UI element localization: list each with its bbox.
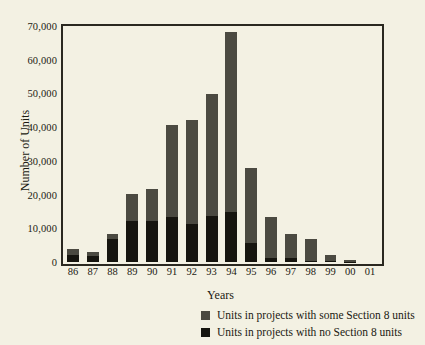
x-axis-tick-label: 86 [68,266,79,277]
bar-group [225,32,237,262]
y-axis-tick-label: 70,000 [28,21,57,32]
y-axis-tick-label: 60,000 [28,54,57,65]
legend-swatch-no-section8 [201,328,210,337]
stacked-bar-chart: 010,00020,00030,00040,00050,00060,00070,… [0,0,425,345]
chart-legend: Units in projects with some Section 8 un… [201,307,425,341]
bar-segment-no-section8 [166,217,178,262]
bar-segment-no-section8 [146,221,158,262]
x-axis-tick-label: 98 [305,266,316,277]
x-axis-tick-label: 97 [286,266,297,277]
bar-group [87,252,99,262]
x-axis-tick-label: 89 [127,266,138,277]
bar-segment-some-section8 [166,125,178,217]
bar-group [245,168,257,262]
legend-item: Units in projects with no Section 8 unit… [201,324,425,340]
legend-item: Units in projects with some Section 8 un… [201,307,425,323]
bar-segment-no-section8 [67,255,79,262]
bar-segment-no-section8 [285,258,297,262]
bar-segment-some-section8 [206,94,218,216]
y-axis-title: Number of Units [18,66,33,236]
bar-segment-no-section8 [305,261,317,262]
bar-segment-no-section8 [245,243,257,262]
bar-segment-some-section8 [225,32,237,212]
bar-segment-no-section8 [107,239,119,262]
x-axis-tick-label: 90 [147,266,158,277]
x-axis-title: Years [61,288,380,303]
bar-segment-no-section8 [126,221,138,262]
bar-group [67,249,79,262]
x-axis-tick-label: 96 [266,266,277,277]
x-axis-tick-label: 91 [167,266,178,277]
bar-group [126,194,138,262]
x-axis-tick-label: 99 [325,266,336,277]
bar-segment-no-section8 [265,258,277,262]
bars-layer [63,26,380,262]
bar-segment-no-section8 [325,261,337,262]
bar-group [265,217,277,262]
x-axis-tick-label: 94 [226,266,237,277]
x-axis-tick-label: 87 [87,266,98,277]
bar-segment-some-section8 [265,217,277,258]
x-axis: 86878889909192939495969798990001 [63,266,380,282]
bar-segment-no-section8 [87,256,99,262]
bar-group [325,255,337,262]
bar-segment-no-section8 [186,224,198,262]
x-axis-tick-label: 93 [206,266,217,277]
legend-item-label: Units in projects with some Section 8 un… [217,309,415,321]
bar-segment-no-section8 [225,212,237,262]
bar-group [146,189,158,262]
bar-group [206,94,218,262]
bar-group [305,239,317,262]
bar-segment-some-section8 [126,194,138,221]
bar-group [285,234,297,262]
legend-swatch-some-section8 [201,311,210,320]
bar-segment-no-section8 [206,216,218,262]
bar-group [344,260,356,262]
bar-group [107,234,119,262]
legend-item-label: Units in projects with no Section 8 unit… [217,326,402,338]
x-axis-tick-label: 01 [365,266,376,277]
bar-group [166,125,178,262]
x-axis-tick-label: 92 [187,266,198,277]
x-axis-tick-label: 00 [345,266,356,277]
bar-group [186,120,198,262]
x-axis-tick-label: 88 [107,266,118,277]
clipped-footer-text [150,339,310,345]
x-axis-tick-label: 95 [246,266,257,277]
bar-segment-some-section8 [146,189,158,221]
bar-segment-some-section8 [285,234,297,258]
bar-segment-some-section8 [245,168,257,244]
bar-segment-some-section8 [186,120,198,224]
y-axis-tick-label: 0 [52,257,57,268]
bar-segment-some-section8 [305,239,317,261]
